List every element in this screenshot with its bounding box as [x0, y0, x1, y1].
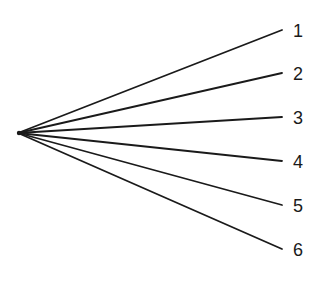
branch-label-2: 2: [293, 65, 303, 83]
branch-label-1: 1: [293, 22, 303, 40]
branch-label-5: 5: [293, 197, 303, 215]
branch-line-3: [18, 117, 282, 133]
branch-label-4: 4: [293, 153, 303, 171]
fan-diagram: [0, 0, 326, 281]
branch-line-6: [18, 133, 282, 249]
branch-label-6: 6: [293, 241, 303, 259]
branch-line-5: [18, 133, 282, 205]
branch-label-3: 3: [293, 109, 303, 127]
branch-line-4: [18, 133, 282, 161]
origin-vertex: [17, 131, 21, 135]
